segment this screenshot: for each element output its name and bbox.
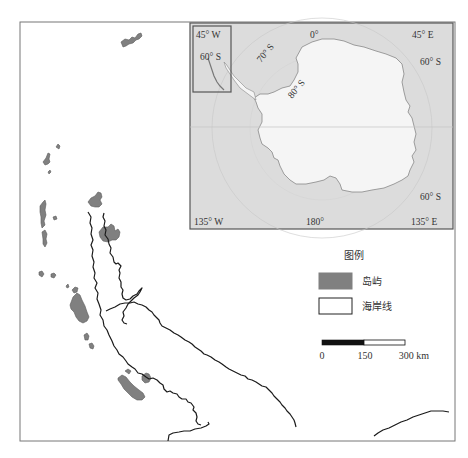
legend-title: 图例 — [344, 249, 364, 261]
scale-tick-150: 150 — [358, 350, 373, 361]
inset-label-135e: 135° E — [411, 217, 437, 227]
legend-swatch-island — [319, 273, 352, 289]
inset-locator-map: 45° W 0° 45° E 60° S 70° S 80° S 60° S 6… — [190, 18, 453, 238]
legend-swatch-coastline — [319, 298, 352, 314]
scale-tick-300: 300 km — [399, 350, 430, 361]
inset-label-60s-left: 60° S — [200, 52, 221, 62]
legend-label-coastline: 海岸线 — [362, 300, 392, 312]
inset-label-45e: 45° E — [412, 30, 434, 40]
inset-label-60s-right-lower: 60° S — [420, 192, 441, 202]
inset-label-135w: 135° W — [194, 217, 223, 227]
inset-label-0: 0° — [310, 30, 319, 40]
map-figure: 45° W 0° 45° E 60° S 70° S 80° S 60° S 6… — [0, 0, 468, 458]
inset-label-45w: 45° W — [196, 30, 221, 40]
scale-tick-0: 0 — [320, 350, 325, 361]
inset-label-180: 180° — [306, 217, 324, 227]
legend-label-island: 岛屿 — [362, 275, 382, 287]
inset-label-60s-right-upper: 60° S — [420, 57, 441, 67]
